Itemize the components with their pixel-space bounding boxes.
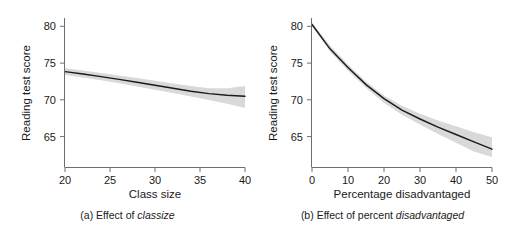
x-axis-title-disadvantaged: Percentage disadvantaged — [334, 188, 471, 200]
y-tick-label-65-classize: 65 — [44, 131, 56, 143]
panel-caption-a: (a) Effect of classize — [0, 209, 255, 221]
y-axis-title-classize: Reading test score — [20, 45, 32, 141]
panel-caption-a-term: classize — [137, 209, 174, 221]
x-tick-label-30-classize: 30 — [149, 174, 161, 186]
panel-caption-b-prefix: (b) Effect of percent — [301, 209, 396, 221]
panel-effect-classize: 80 75 70 65 20 25 30 35 40 Class size Re… — [0, 0, 255, 231]
panel-caption-b-term: disadvantaged — [396, 209, 464, 221]
y-tick-label-70-classize: 70 — [44, 94, 56, 106]
x-tick-label-50-disadvantaged: 50 — [486, 174, 498, 186]
x-tick-label-20-disadvantaged: 20 — [378, 174, 390, 186]
confidence-band-disadvantaged — [312, 23, 492, 158]
y-tick-label-75-classize: 75 — [44, 57, 56, 69]
y-tick-label-80-disadvantaged: 80 — [291, 20, 303, 32]
figure-container: 80 75 70 65 20 25 30 35 40 Class size Re… — [0, 0, 510, 231]
x-tick-label-40-classize: 40 — [239, 174, 251, 186]
y-axis-title-disadvantaged: Reading test score — [267, 45, 279, 141]
x-axis-title-classize: Class size — [129, 188, 181, 200]
plot-area-disadvantaged: 80 75 70 65 0 10 20 30 40 50 Percentage … — [255, 0, 510, 231]
y-tick-label-70-disadvantaged: 70 — [291, 94, 303, 106]
confidence-band-classize — [65, 68, 245, 108]
plot-area-classize: 80 75 70 65 20 25 30 35 40 Class size Re… — [0, 0, 255, 231]
y-tick-label-80-classize: 80 — [44, 20, 56, 32]
x-tick-label-30-disadvantaged: 30 — [414, 174, 426, 186]
x-tick-label-25-classize: 25 — [104, 174, 116, 186]
panel-effect-disadvantaged: 80 75 70 65 0 10 20 30 40 50 Percentage … — [255, 0, 510, 231]
y-tick-label-75-disadvantaged: 75 — [291, 57, 303, 69]
x-tick-label-40-disadvantaged: 40 — [450, 174, 462, 186]
x-tick-label-0-disadvantaged: 0 — [309, 174, 315, 186]
x-tick-label-10-disadvantaged: 10 — [342, 174, 354, 186]
y-tick-label-65-disadvantaged: 65 — [291, 131, 303, 143]
panel-caption-b: (b) Effect of percent disadvantaged — [255, 209, 510, 221]
panel-caption-a-prefix: (a) Effect of — [80, 209, 137, 221]
x-tick-label-35-classize: 35 — [194, 174, 206, 186]
x-tick-label-20-classize: 20 — [59, 174, 71, 186]
